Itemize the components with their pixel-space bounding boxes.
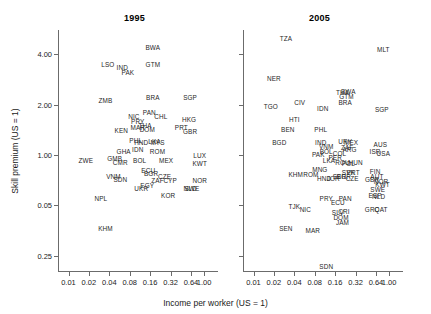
x-axis-tick-label: 0.02 xyxy=(267,278,282,287)
data-point-label: HTI xyxy=(289,117,300,123)
data-point-label: ZWE xyxy=(79,158,94,164)
y-axis-tick-mark xyxy=(54,54,58,55)
x-axis-tick-mark xyxy=(89,272,90,276)
data-point-label: BOL xyxy=(133,158,146,164)
data-point-label: TJK xyxy=(288,204,300,210)
data-point-label: GBR xyxy=(183,129,197,135)
data-point-label: KHM xyxy=(98,226,113,232)
x-axis-tick-mark xyxy=(315,272,316,276)
x-axis-tick-mark xyxy=(376,272,377,276)
data-point-label: LKA xyxy=(323,158,335,164)
data-point-label: CMR xyxy=(113,160,128,166)
data-point-label: CYP xyxy=(163,178,176,184)
data-point-label: GTM xyxy=(146,62,161,68)
y-axis-tick-mark xyxy=(54,105,58,106)
data-point-label: LSO xyxy=(101,62,114,68)
y-axis-tick-label: 0.05 xyxy=(37,201,52,210)
x-axis-tick-mark xyxy=(109,272,110,276)
x-axis-tick-mark xyxy=(191,272,192,276)
y-axis-tick-mark xyxy=(54,155,58,156)
data-point-label: EGY xyxy=(140,183,154,189)
y-axis-tick-label: 1.00 xyxy=(37,151,52,160)
data-point-label: SGP xyxy=(183,95,197,101)
x-axis-tick-label: 0.02 xyxy=(82,278,97,287)
x-axis-tick-label: 0.01 xyxy=(246,278,261,287)
data-point-label: BEN xyxy=(281,126,294,132)
y-axis-spine xyxy=(58,30,59,272)
data-point-label: CIV xyxy=(294,100,305,106)
data-point-label: AUS xyxy=(374,142,387,148)
x-axis-tick-mark xyxy=(335,272,336,276)
data-point-label: AUT xyxy=(370,174,383,180)
x-axis-tick-label: 0.16 xyxy=(328,278,343,287)
data-point-label: MAR xyxy=(306,228,321,234)
data-point-label: NIC xyxy=(300,207,311,213)
data-point-label: SDN xyxy=(319,264,333,270)
x-axis-tick-label: 0.32 xyxy=(348,278,363,287)
x-axis-tick-mark xyxy=(356,272,357,276)
data-point-label: MLT xyxy=(377,47,390,53)
data-point-label: IDN xyxy=(317,105,328,111)
data-point-label: NER xyxy=(267,76,281,82)
x-axis-tick-mark xyxy=(69,272,70,276)
data-point-label: USA xyxy=(377,150,390,156)
y-axis-tick-mark xyxy=(239,205,243,206)
y-axis-title: Skill premium (US = 1) xyxy=(10,108,20,193)
data-point-label: PAN xyxy=(339,195,352,201)
data-point-label: KOR xyxy=(161,193,175,199)
data-point-label: TGO xyxy=(264,103,278,109)
data-point-label: MEX xyxy=(159,158,173,164)
x-axis-spine xyxy=(243,271,403,272)
data-point-label: LKA xyxy=(148,139,160,145)
data-point-label: JAM xyxy=(336,220,349,226)
data-point-label: KHM xyxy=(289,172,304,178)
panel-title-2005: 2005 xyxy=(232,13,407,23)
data-point-label: LUX xyxy=(193,153,206,159)
data-point-label: CHL xyxy=(154,114,167,120)
data-point-label: TZA xyxy=(280,36,292,42)
data-point-label: BRA xyxy=(146,95,159,101)
x-axis-tick-mark xyxy=(254,272,255,276)
x-axis-tick-label: 1.00 xyxy=(197,278,212,287)
x-axis-tick-label: 0.16 xyxy=(143,278,158,287)
x-axis-spine xyxy=(58,271,218,272)
data-point-label: HUN xyxy=(349,160,363,166)
x-axis-tick-mark xyxy=(150,272,151,276)
x-axis-tick-mark xyxy=(204,272,205,276)
data-point-label: KEN xyxy=(115,127,128,133)
x-axis-tick-mark xyxy=(294,272,295,276)
x-axis-tick-label: 0.04 xyxy=(102,278,117,287)
data-point-label: SGP xyxy=(375,107,389,113)
x-axis-tick-label: 0.01 xyxy=(61,278,76,287)
data-point-label: HKG xyxy=(182,117,196,123)
figure-canvas: 1995 2005 4.002.001.000.050.250.010.020.… xyxy=(0,0,431,314)
data-point-label: BGD xyxy=(272,140,286,146)
y-axis-spine xyxy=(243,30,244,272)
y-axis-tick-label: 4.00 xyxy=(37,50,52,59)
x-axis-tick-mark xyxy=(130,272,131,276)
data-point-label: PAK xyxy=(122,70,135,76)
data-point-label: QAT xyxy=(375,207,388,213)
data-point-label: BWA xyxy=(146,45,161,51)
data-point-label: BRA xyxy=(338,100,351,106)
y-axis-tick-mark xyxy=(239,105,243,106)
data-point-label: NPL xyxy=(94,195,107,201)
y-axis-tick-label: 0.25 xyxy=(37,251,52,260)
x-axis-tick-label: 0.08 xyxy=(122,278,137,287)
x-axis-tick-label: 1.00 xyxy=(382,278,397,287)
data-point-label: KWT xyxy=(192,161,207,167)
data-point-label: NLD xyxy=(372,194,385,200)
x-axis-tick-label: 0.32 xyxy=(163,278,178,287)
x-axis-tick-label: 0.04 xyxy=(287,278,302,287)
data-point-label: DOM xyxy=(140,126,155,132)
y-axis-tick-mark xyxy=(239,54,243,55)
data-point-label: PHL xyxy=(314,126,327,132)
data-point-label: SDN xyxy=(113,177,127,183)
data-point-label: CZE xyxy=(346,176,359,182)
y-axis-tick-mark xyxy=(54,205,58,206)
x-axis-tick-mark xyxy=(171,272,172,276)
data-point-label: IDN xyxy=(132,147,143,153)
y-axis-tick-mark xyxy=(239,155,243,156)
x-axis-tick-mark xyxy=(274,272,275,276)
x-axis-tick-label: 0.08 xyxy=(307,278,322,287)
